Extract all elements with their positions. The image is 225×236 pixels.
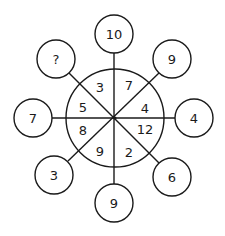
outer-circle-right: 4 [175,99,213,137]
sector-value: 8 [79,123,87,138]
sector-value: 9 [96,144,104,159]
unknown-value: ? [53,52,60,67]
outer-circle-bottom-left: 3 [35,156,73,194]
outer-circle-bottom: 9 [95,184,133,222]
outer-circle-top: 10 [95,15,133,53]
sector-value: 7 [125,78,133,93]
outer-circle-bottom-right: 6 [153,158,191,196]
outer-value: 9 [168,52,176,67]
sector-value: 2 [125,145,133,160]
sector-value: 3 [96,80,104,95]
sector-value: 4 [141,101,149,116]
outer-circle-top-left: ? [37,40,75,78]
outer-value: 10 [106,27,123,42]
outer-value: 6 [168,170,176,185]
center-dot [113,116,116,119]
outer-value: 3 [50,168,58,183]
outer-circle-left: 7 [14,99,52,137]
outer-circle-top-right: 9 [153,40,191,78]
sector-value: 5 [79,100,87,115]
outer-value: 7 [29,111,37,126]
outer-value: 9 [110,196,118,211]
sector-value: 12 [137,122,154,137]
outer-value: 4 [190,111,198,126]
number-wheel-puzzle: 3 7 4 12 2 9 8 5 10 9 4 6 9 3 [0,0,225,236]
